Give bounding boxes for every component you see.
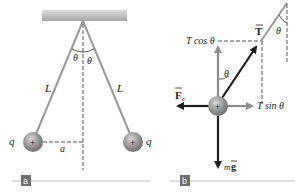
angle-label-top: θ — [276, 25, 281, 36]
pendulum-diagram: θ θ L L + + q q a a + θ θ — [0, 0, 305, 195]
ball-sign-left: + — [30, 138, 35, 148]
tcos-label: T cos θ — [186, 35, 215, 46]
string-label-left: L — [44, 82, 51, 94]
charge-label-right: q — [146, 135, 152, 147]
ball-sign-right: + — [130, 138, 135, 148]
electric-force-subscript: e — [182, 95, 185, 103]
weight-label-m: m — [224, 162, 231, 172]
angle-label-ball: θ — [224, 68, 229, 79]
string-left — [36, 21, 83, 134]
panel-tag-a-label: a — [23, 176, 28, 186]
electric-force-label: F — [175, 89, 182, 101]
angle-label-right: θ — [87, 55, 92, 66]
ceiling — [42, 10, 127, 21]
tsin-label: T sin θ — [257, 100, 284, 111]
string-right — [83, 21, 130, 134]
angle-arc-top — [279, 15, 287, 23]
panel-tag-b-label: b — [182, 176, 187, 186]
tension-label: T — [255, 25, 263, 37]
panel-b: + θ θ T T cos θ T sin θ F e m g b — [170, 3, 295, 186]
distance-label: a — [60, 143, 65, 154]
panel-a: θ θ L L + + q q a a — [9, 10, 152, 186]
string-b — [261, 3, 287, 41]
ball-sign-b: + — [215, 102, 220, 112]
angle-label-left: θ — [73, 52, 78, 63]
weight-label-g: g — [231, 161, 236, 172]
string-label-right: L — [116, 82, 123, 94]
charge-label-left: q — [9, 135, 15, 147]
